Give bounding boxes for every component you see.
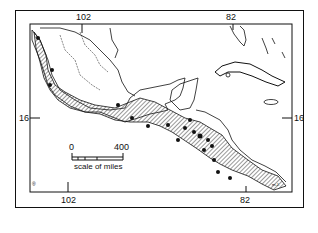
florida-outline (230, 26, 246, 46)
longitude-label-top-102: 102 (76, 13, 91, 22)
longitude-label-top-82: 82 (226, 13, 236, 22)
scale-caption: scale of miles (74, 163, 122, 171)
longitude-label-bottom-82: 82 (240, 196, 250, 205)
corner-mark-right: m.J. (272, 183, 280, 187)
cuba-outline (215, 62, 285, 86)
scale-end-label: 400 (114, 143, 129, 152)
latitude-label-left-16: 16 (19, 114, 29, 123)
longitude-label-bottom-102: 102 (61, 196, 76, 205)
yucatan-outline (170, 78, 198, 110)
range-hatched-area (34, 32, 286, 190)
latitude-label-right-16: 16 (294, 114, 304, 123)
map-canvas (0, 0, 318, 233)
scale-start-label: 0 (69, 143, 74, 152)
corner-mark-left: ® (32, 182, 36, 187)
scale-bar (72, 153, 123, 160)
